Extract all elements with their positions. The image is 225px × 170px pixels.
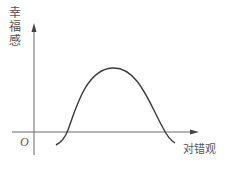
x-axis-label: 对错观 [183,140,216,156]
y-axis-label: 幸福感 [8,6,22,48]
x-axis-arrow-icon [190,130,199,135]
origin-label: O [20,135,29,150]
y-axis-arrow-icon [32,23,37,32]
happiness-curve [56,68,175,145]
